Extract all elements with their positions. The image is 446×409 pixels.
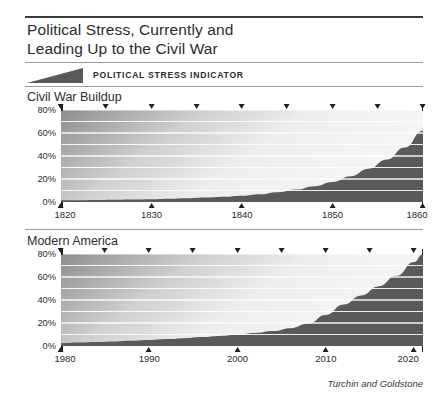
y-axis-labels: 0%20%40%60%80% [25,110,59,202]
page-title-line-1: Political Stress, Currently and [27,20,357,39]
x-axis-tick-label: 1850 [322,209,343,220]
y-axis-labels: 0%20%40%60%80% [25,254,59,346]
x-axis-minor-tick [103,104,109,109]
x-axis-tick-label: 1860 [406,209,427,220]
x-axis-major-tick [329,203,335,208]
x-axis-minor-tick [284,104,290,109]
axis-corner-mark [422,105,424,111]
divider-legend-bottom [25,86,423,87]
x-axis-major-tick [411,347,417,352]
infographic-page: Political Stress, Currently and Leading … [0,0,446,409]
axis-corner-mark [422,202,424,208]
panel-heading-civil-war-buildup: Civil War Buildup [27,90,122,104]
x-axis-ticks-top [61,104,423,111]
x-axis-major-tick [322,347,328,352]
divider-panel2-top [25,229,423,230]
x-axis-ticks-top [61,248,423,255]
y-axis-tick-label: 0% [43,341,56,351]
x-axis-tick-label: 2010 [315,353,336,364]
x-axis-minor-tick [374,104,380,109]
x-axis-minor-tick [367,248,373,253]
x-axis-major-tick-top [329,104,335,109]
y-axis-tick-label: 60% [37,128,56,138]
legend: POLITICAL STRESS INDICATOR [27,65,244,85]
x-axis-tick-label: 1830 [141,209,162,220]
x-axis-major-tick-top [148,104,154,109]
y-axis-tick-label: 80% [37,105,56,115]
x-axis-tick-label: 1990 [139,353,160,364]
x-axis-tick-label: 2020 [398,353,419,364]
source-attribution: Turchin and Goldstone [328,378,423,389]
axis-corner-mark [61,105,63,111]
x-axis-minor-tick [190,248,196,253]
axis-corner-mark [422,346,424,352]
x-axis-major-tick-top [239,104,245,109]
y-axis-tick-label: 40% [37,151,56,161]
y-axis-tick-label: 40% [37,295,56,305]
page-title: Political Stress, Currently and Leading … [27,20,357,58]
x-axis-tick-label: 2000 [227,353,248,364]
axis-corner-mark [61,346,63,352]
x-axis-major-tick-top [322,248,328,253]
divider-title-top [25,16,423,18]
plot-area [61,254,423,346]
x-axis-minor-tick [102,248,108,253]
x-axis-major-tick-top [234,248,240,253]
y-axis-tick-label: 20% [37,174,56,184]
y-axis-tick-label: 60% [37,272,56,282]
x-axis-tick-label: 1820 [54,209,75,220]
plot-area [61,110,423,202]
x-axis-tick-label: 1840 [231,209,252,220]
wedge-icon [27,68,83,83]
x-axis-tick-label: 1980 [54,353,75,364]
y-axis-tick-label: 0% [43,197,56,207]
panel-heading-modern-america: Modern America [27,234,118,248]
page-title-line-2: Leading Up to the Civil War [27,39,357,58]
x-axis-labels: 18201830184018501860 [61,209,423,223]
divider-legend-top [25,62,423,63]
y-axis-tick-label: 20% [37,318,56,328]
x-axis-major-tick [239,203,245,208]
axis-corner-mark [61,249,63,255]
x-axis-major-tick [146,347,152,352]
axis-corner-mark [422,249,424,255]
axis-corner-mark [61,202,63,208]
chart-modern-america: 0%20%40%60%80% 19801990200020102020 [25,254,423,358]
x-axis-ticks-bottom [61,346,423,353]
x-axis-minor-tick [193,104,199,109]
x-axis-minor-tick [278,248,284,253]
x-axis-major-tick [148,203,154,208]
x-axis-major-tick-top [146,248,152,253]
y-axis-tick-label: 80% [37,249,56,259]
x-axis-major-tick-top [411,248,417,253]
legend-label: POLITICAL STRESS INDICATOR [93,70,244,80]
x-axis-labels: 19801990200020102020 [61,353,423,367]
chart-civil-war-buildup: 0%20%40%60%80% 18201830184018501860 [25,110,423,214]
x-axis-major-tick [234,347,240,352]
x-axis-ticks-bottom [61,202,423,209]
